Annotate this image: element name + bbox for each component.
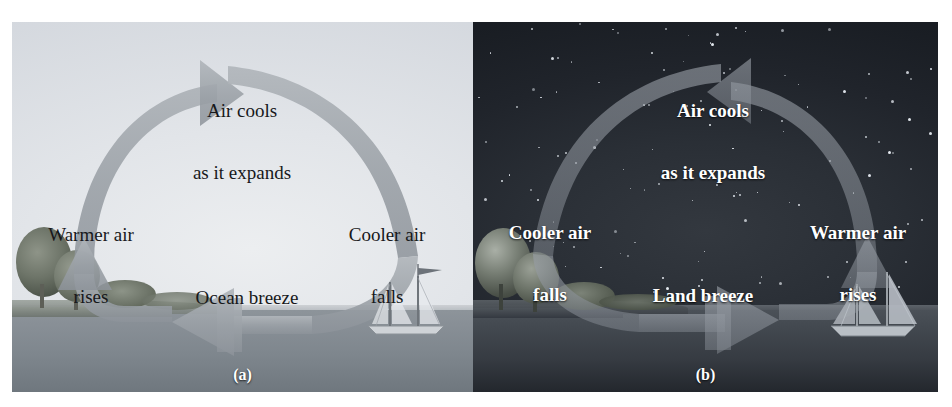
day-label-cooler-air-falls: Cooler air falls: [312, 184, 462, 348]
day-label-ocean-breeze: Ocean breeze: [152, 288, 342, 309]
day-label-air-cools-line1: Air cools: [142, 101, 342, 122]
night-label-air-cools-line1: Air cools: [613, 101, 813, 122]
night-label-cooler-air-falls-line1: Cooler air: [475, 223, 625, 244]
panel-night-caption: (b): [473, 366, 938, 384]
panel-day-ocean-breeze: Warmer air rises Air cools as it expands…: [12, 22, 473, 392]
night-label-air-cools-line2: as it expands: [613, 163, 813, 184]
panel-day-caption: (a): [12, 366, 473, 384]
day-label-warmer-air-rises-line2: rises: [16, 287, 166, 308]
night-label-warmer-air-rises: Warmer air rises: [783, 182, 933, 346]
night-label-warmer-air-rises-line2: rises: [783, 285, 933, 306]
day-label-warmer-air-rises-line1: Warmer air: [16, 225, 166, 246]
figure-container: Warmer air rises Air cools as it expands…: [12, 22, 938, 392]
panel-night-land-breeze: Cooler air falls Air cools as it expands…: [473, 22, 938, 392]
day-label-cooler-air-falls-line1: Cooler air: [312, 225, 462, 246]
night-label-warmer-air-rises-line1: Warmer air: [783, 223, 933, 244]
night-label-cooler-air-falls: Cooler air falls: [475, 182, 625, 346]
day-label-air-cools-line2: as it expands: [142, 163, 342, 184]
night-label-land-breeze: Land breeze: [603, 286, 803, 307]
